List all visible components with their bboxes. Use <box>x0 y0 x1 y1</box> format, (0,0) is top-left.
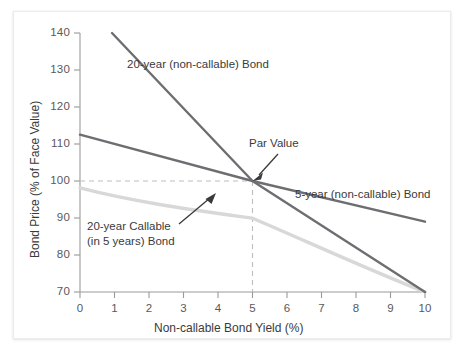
x-tick-label-4: 4 <box>204 302 232 314</box>
x-axis-title: Non-callable Bond Yield (%) <box>154 321 303 335</box>
x-tick-label-8: 8 <box>342 302 370 314</box>
annotation-20-year-callable-line-2: (in 5 years) Bond <box>87 234 175 249</box>
x-tick-label-10: 10 <box>411 302 439 314</box>
x-tick-label-0: 0 <box>66 302 94 314</box>
par-value-arrow-icon <box>253 154 279 181</box>
chart-figure: 140 130 120 110 100 90 80 70 0 1 2 3 4 5… <box>0 0 464 351</box>
chart-frame: 140 130 120 110 100 90 80 70 0 1 2 3 4 5… <box>13 11 451 339</box>
y-axis-title: Bond Price (% of Face Value) <box>28 101 42 258</box>
x-tick-label-7: 7 <box>308 302 336 314</box>
x-axis-ticks <box>80 292 425 298</box>
annotation-20-year-non-callable: 20-year (non-callable) Bond <box>127 57 269 72</box>
annotation-5-year-non-callable: 5-year (non-callable) Bond <box>295 187 431 202</box>
x-tick-label-6: 6 <box>273 302 301 314</box>
y-axis-ticks <box>74 33 80 292</box>
x-tick-label-5: 5 <box>239 302 267 314</box>
y-tick-label-70: 70 <box>32 285 70 297</box>
x-tick-label-1: 1 <box>101 302 129 314</box>
annotation-par-value: Par Value <box>249 136 299 151</box>
x-tick-label-2: 2 <box>135 302 163 314</box>
annotation-20-year-callable-line-1: 20-year Callable <box>87 219 171 234</box>
x-tick-label-9: 9 <box>377 302 405 314</box>
y-tick-label-140: 140 <box>32 26 70 38</box>
x-tick-label-3: 3 <box>170 302 198 314</box>
y-tick-label-130: 130 <box>32 63 70 75</box>
